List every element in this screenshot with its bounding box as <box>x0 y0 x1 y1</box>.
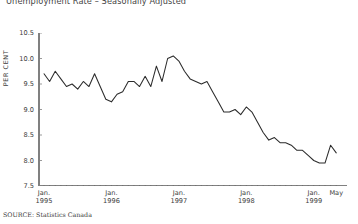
x-axis-tick-label: Jan.1998 <box>226 189 266 206</box>
x-axis-tick-month: Jan. <box>159 189 199 197</box>
x-axis-tick-year: 1998 <box>226 197 266 205</box>
x-axis-tick-label: Jan.1997 <box>159 189 199 206</box>
plot-area <box>38 33 347 186</box>
x-axis-tick-label: May <box>316 189 356 197</box>
x-axis-tick-month: Jan. <box>24 189 64 197</box>
y-axis-tick-label: 10.5 <box>8 29 34 37</box>
x-axis-tick-year: 1999 <box>294 197 334 205</box>
chart-title: Unemployment Rate – Seasonally Adjusted <box>6 0 186 7</box>
y-axis-tick-labels: 10.510.09.59.08.58.07.5 <box>4 33 34 186</box>
x-axis-tick-year: 1995 <box>24 197 64 205</box>
x-axis-tick-label: Jan.1995 <box>24 189 64 206</box>
x-axis-tick-month: May <box>316 189 356 197</box>
source-note: SOURCE: Statistics Canada <box>3 211 92 218</box>
x-axis-tick-year: 1996 <box>91 197 131 205</box>
unemployment-rate-line-chart <box>38 33 347 186</box>
y-axis-tick-label: 8.0 <box>8 157 34 165</box>
y-axis-tick-label: 9.5 <box>8 80 34 88</box>
x-axis-tick-year: 1997 <box>159 197 199 205</box>
x-axis-tick-label: Jan.1996 <box>91 189 131 206</box>
x-axis-tick-month: Jan. <box>91 189 131 197</box>
data-series-line <box>44 56 336 163</box>
x-axis-tick-labels: Jan.1995Jan.1996Jan.1997Jan.1998Jan.1999… <box>0 189 358 211</box>
y-axis-tick-label: 10.0 <box>8 55 34 63</box>
chart-figure: Unemployment Rate – Seasonally Adjusted … <box>0 0 358 224</box>
x-axis-tick-month: Jan. <box>226 189 266 197</box>
y-axis-tick-label: 8.5 <box>8 131 34 139</box>
y-axis-tick-label: 9.0 <box>8 106 34 114</box>
